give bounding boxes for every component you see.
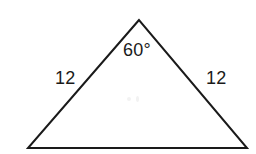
- apex-angle-label: 60°: [123, 41, 151, 59]
- right-side-length-label: 12: [206, 69, 226, 87]
- figure-canvas: 60° 12 12: [0, 0, 256, 154]
- scan-artifact-speck: [136, 96, 139, 102]
- scan-artifact-speck: [127, 97, 131, 101]
- left-side-length-label: 12: [55, 69, 75, 87]
